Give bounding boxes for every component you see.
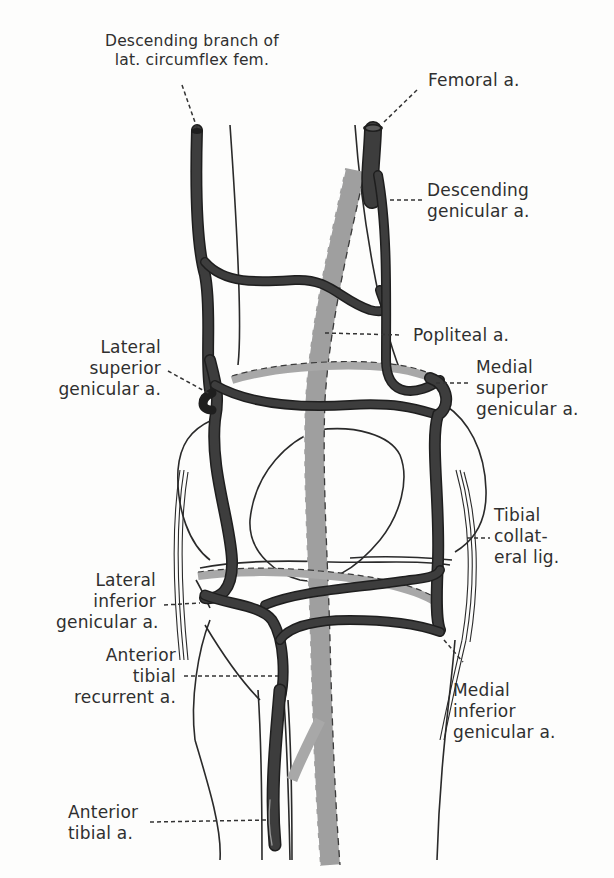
label-femoral: Femoral a. [428,70,520,91]
label-lateral-inferior-genicular: Lateral inferior genicular a. [56,570,156,633]
label-anterior-tibial-recurrent: Anterior tibial recurrent a. [56,645,176,708]
knee-arterial-anastomosis-diagram: Descending branch of lat. circumflex fem… [0,0,614,878]
artery-cut-ends [191,124,383,134]
label-tibial-collateral-lig: Tibial collat- eral lig. [494,505,559,568]
leader-femoral [384,90,417,122]
lateral-collateral-band [174,470,188,660]
label-anterior-tibial: Anterior tibial a. [68,802,138,844]
label-medial-superior-genicular: Medial superior genicular a. [476,357,579,420]
label-medial-inferior-genicular: Medial inferior genicular a. [453,680,556,743]
label-desc-branch-lat-circumflex: Descending branch of lat. circumflex fem… [105,32,279,70]
leader-anterior-tibial [150,820,268,822]
label-descending-genicular: Descending genicular a. [427,180,530,222]
label-lateral-superior-genicular: Lateral superior genicular a. [56,337,161,400]
leader-lateral-inferior-genicular [164,603,200,605]
diagram-artwork [0,0,614,878]
label-popliteal: Popliteal a. [413,325,509,346]
leader-desc-branch-lat-circumflex [182,85,197,128]
